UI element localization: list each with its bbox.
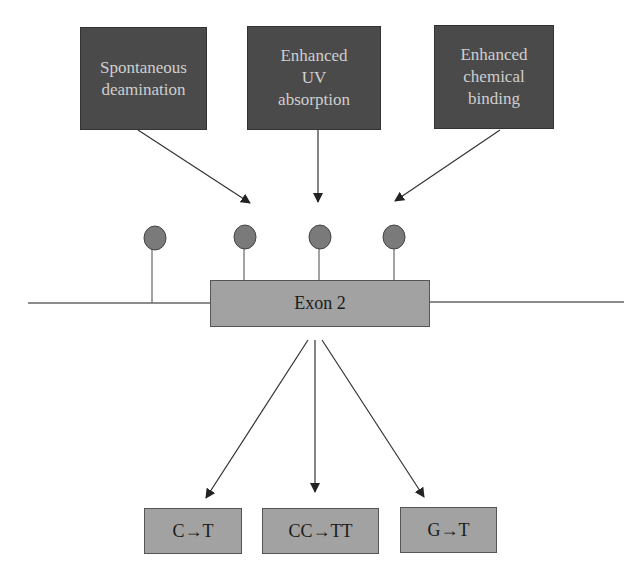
arrow-g-to-t bbox=[322, 340, 424, 497]
outcome-label: G→T bbox=[428, 520, 470, 541]
exon-label: Exon 2 bbox=[294, 293, 346, 314]
cause-box-chemical-binding: Enhanced chemical binding bbox=[434, 25, 554, 129]
arrow-c-to-t bbox=[206, 340, 308, 498]
outcome-box-cc-to-tt: CC→TT bbox=[262, 508, 379, 554]
outcome-box-g-to-t: G→T bbox=[400, 507, 497, 553]
cause-label: Enhanced UV absorption bbox=[278, 45, 350, 111]
outcome-box-c-to-t: C→T bbox=[144, 508, 242, 554]
cause-label: Enhanced chemical binding bbox=[460, 44, 527, 110]
outcome-label: C→T bbox=[172, 521, 213, 542]
cause-box-uv-absorption: Enhanced UV absorption bbox=[247, 26, 381, 130]
outcome-label: CC→TT bbox=[288, 521, 352, 542]
arrow-deamination bbox=[138, 130, 250, 203]
methylation-site-icon bbox=[144, 226, 166, 250]
arrow-chemical bbox=[395, 130, 500, 201]
methylation-site-icon bbox=[383, 225, 405, 249]
cause-label: Spontaneous deamination bbox=[100, 57, 187, 101]
methylation-site-icon bbox=[309, 225, 331, 249]
cause-box-deamination: Spontaneous deamination bbox=[80, 27, 207, 130]
exon-2-box: Exon 2 bbox=[210, 280, 430, 327]
methylation-site-icon bbox=[234, 225, 256, 249]
